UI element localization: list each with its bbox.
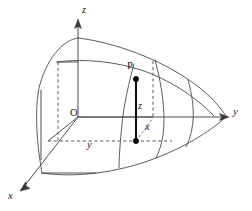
spherical-coordinate-figure: z y x O P z x y [0,0,252,211]
x-axis-arrowhead [20,182,30,191]
point-p-dot [133,76,138,81]
y-axis-label: y [233,107,238,118]
point-p-projection-dot [133,138,138,143]
x-axis-label: x [8,191,13,202]
x-coordinate-label: x [145,122,150,133]
y-coordinate-label: y [87,140,92,151]
point-p-label: P [127,61,133,72]
bottom-equator-arc [42,117,226,175]
height-segment-label: z [138,101,142,112]
right-meridian-arc [155,60,164,158]
z-axis-label: z [82,5,86,16]
origin-to-base-edge [48,117,78,141]
meridian-through-point-p [119,64,134,168]
interior-meridian-arc [186,80,193,147]
left-meridian-arc [37,38,78,173]
origin-label: O [70,108,78,119]
top-equator-arc [78,38,226,116]
figure-canvas [0,0,252,211]
